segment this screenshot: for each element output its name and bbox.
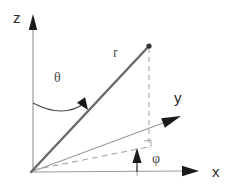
right-angle-marker bbox=[144, 140, 151, 147]
x-axis-arrowhead bbox=[182, 166, 199, 176]
theta-arc-arrowhead bbox=[77, 97, 88, 110]
y-axis-label: y bbox=[174, 89, 182, 106]
theta-angle-arc bbox=[33, 97, 88, 111]
theta-angle-label: θ bbox=[54, 70, 61, 85]
spherical-coordinate-diagram: z y x r θ φ bbox=[0, 0, 232, 191]
phi-angle-label: φ bbox=[152, 151, 160, 166]
diagram-canvas: z y x r θ φ bbox=[0, 0, 232, 191]
x-axis-line bbox=[31, 171, 182, 172]
phi-angle-arrow bbox=[132, 148, 141, 172]
radius-label: r bbox=[113, 45, 118, 60]
diagram-labels: z y x r θ φ bbox=[13, 9, 220, 180]
x-axis-label: x bbox=[212, 163, 220, 180]
radius-vector bbox=[31, 43, 152, 172]
z-axis-arrowhead bbox=[29, 14, 37, 30]
z-axis-label: z bbox=[13, 9, 21, 26]
y-axis-arrowhead bbox=[161, 116, 181, 128]
point-marker-dot bbox=[146, 43, 151, 48]
theta-arc-path bbox=[33, 103, 85, 111]
